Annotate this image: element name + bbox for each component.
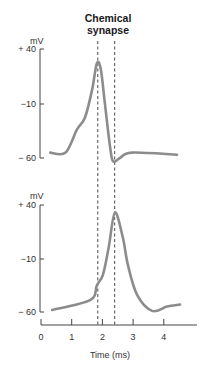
postsynaptic-action-potential-line (52, 212, 180, 311)
postsynaptic-ytick-label: − 60 (18, 307, 36, 317)
presynaptic-ytick-label: + 40 (18, 44, 36, 54)
presynaptic-ytick-label: −10 (21, 99, 36, 109)
presynaptic-ytick-label: − 60 (18, 153, 36, 163)
x-tick-label: 3 (131, 332, 136, 342)
x-tick-label: 1 (69, 332, 74, 342)
postsynaptic-panel: mV + 40 −10 − 60 (18, 191, 180, 317)
chart-title-line-2: synapse (87, 24, 129, 36)
presynaptic-panel: mV + 40 −10 − 60 (18, 36, 177, 163)
presynaptic-action-potential-line (50, 62, 177, 162)
postsynaptic-ytick-label: −10 (21, 254, 36, 264)
x-tick-label: 0 (38, 332, 43, 342)
postsynaptic-ytick-label: + 40 (18, 200, 36, 210)
x-axis-label: Time (ms) (90, 350, 130, 360)
chart-title-line-1: Chemical (85, 12, 132, 24)
chemical-synapse-chart: Chemical synapse mV + 40 −10 − 60 mV + 4… (0, 0, 205, 377)
x-tick-label: 2 (100, 332, 105, 342)
x-tick-label: 4 (161, 332, 166, 342)
x-axis: 01234 (38, 319, 197, 342)
